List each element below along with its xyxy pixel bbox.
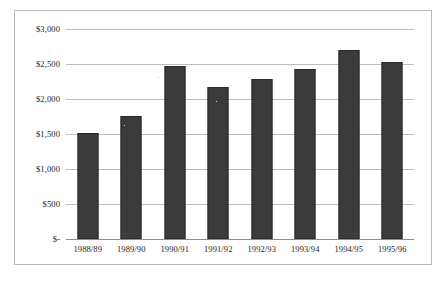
bar[interactable] [164,66,185,239]
gridline-zero-baseline: $- [66,239,414,240]
bar-slot: 1992/93 [240,29,284,239]
plot-area: $3,000 $2,500 $2,000 $1,500 $1,000 $500 … [66,29,414,239]
bar[interactable] [121,116,142,239]
bar[interactable] [251,79,272,239]
x-axis-category-label: 1989/90 [117,245,146,254]
x-axis-category-label: 1992/93 [247,245,276,254]
bar[interactable] [77,133,98,239]
y-axis-label-500: $500 [43,200,60,209]
scan-speck [124,125,125,126]
x-axis-category-label: 1988/89 [73,245,102,254]
x-axis-category-label: 1991/92 [204,245,233,254]
y-axis-label-1500: $1,500 [36,130,60,139]
bar-slot: 1990/91 [153,29,197,239]
bar-slot: 1993/94 [284,29,328,239]
bar-slot: 1991/92 [197,29,241,239]
bar-slot: 1989/90 [110,29,154,239]
x-axis-category-label: 1993/94 [291,245,320,254]
scan-speck [158,77,159,78]
bar[interactable] [208,87,229,239]
bar-slot: 1995/96 [371,29,415,239]
bar[interactable] [295,69,316,239]
y-axis-label-3000: $3,000 [36,25,60,34]
x-axis-category-label: 1995/96 [378,245,407,254]
bar-slot: 1994/95 [327,29,371,239]
chart-frame: $3,000 $2,500 $2,000 $1,500 $1,000 $500 … [14,10,432,265]
bars-layer: 1988/891989/901990/911991/921992/931993/… [66,29,414,239]
bar[interactable] [338,50,359,239]
bar-slot: 1988/89 [66,29,110,239]
x-axis-category-label: 1994/95 [334,245,363,254]
x-axis-category-label: 1990/91 [160,245,189,254]
y-axis-label-1000: $1,000 [36,165,60,174]
scan-speck [216,101,217,102]
bar[interactable] [382,62,403,239]
y-axis-label-zero: $- [53,235,60,244]
y-axis-label-2500: $2,500 [36,60,60,69]
y-axis-label-2000: $2,000 [36,95,60,104]
